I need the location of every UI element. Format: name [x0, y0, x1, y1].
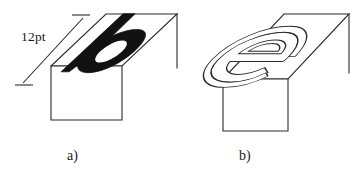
panel-a-group: a) — [51, 14, 177, 164]
block-a-front-face — [51, 66, 122, 120]
caption-b: b) — [239, 148, 251, 164]
caption-a: a) — [67, 148, 78, 164]
dimension-label: 12pt — [21, 29, 46, 44]
panel-b-group: b) — [185, 14, 349, 164]
figure-illustration: a) 12pt — [0, 0, 359, 174]
figure-container: a) 12pt — [0, 0, 359, 174]
